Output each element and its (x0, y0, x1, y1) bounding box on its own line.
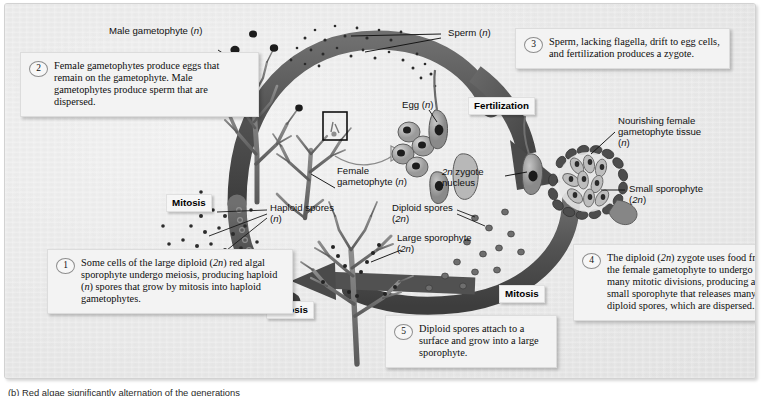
callout-text: Female gametophytes produce eggs that re… (54, 60, 249, 108)
diploid-spores-leaders (457, 210, 485, 226)
callout-step-2: 2 Female gametophytes produce eggs that … (20, 52, 259, 117)
label-sperm: Sperm (n) (448, 28, 491, 39)
label-male-gametophyte: Male gametophyte (n) (109, 26, 202, 37)
label-egg: Egg (n) (402, 100, 433, 111)
callout-step-3: 3 Sperm, lacking flagella, drift to egg … (515, 28, 730, 69)
callout-text: Some cells of the large diploid (2n) red… (81, 257, 283, 305)
stage-label-mitosis-left: Mitosis (166, 194, 212, 212)
figure-panel: Male gametophyte (n) Sperm (n) Egg (n) F… (4, 3, 756, 379)
callout-number: 3 (524, 37, 543, 53)
small-sporophyte-art (547, 144, 637, 225)
label-large-sporophyte: Large sporophyte(2n) (397, 233, 472, 255)
label-diploid-spores: Diploid spores(2n) (392, 203, 453, 225)
stage-label-fertilization: Fertilization (468, 97, 535, 115)
callout-text: Sperm, lacking flagella, drift to egg ce… (549, 36, 720, 60)
fertilization-arrow (475, 74, 561, 190)
callout-text: The diploid (2n) zygote uses food from t… (607, 252, 756, 312)
callout-number: 1 (56, 258, 75, 274)
figure-caption: (b) Red algae significantly alternation … (8, 387, 438, 396)
callout-step-4: 4 The diploid (2n) zygote uses food from… (573, 244, 756, 321)
callout-step-1: 1 Some cells of the large diploid (2n) r… (47, 249, 293, 314)
label-zygote-nucleus: 2n zygotenucleus (442, 167, 484, 189)
callout-number: 5 (394, 324, 413, 340)
label-female-gametophyte: Femalegametophyte (n) (337, 166, 407, 188)
callout-text: Diploid spores attach to a surface and g… (419, 323, 547, 359)
label-nourishing-tissue: Nourishing femalegametophyte tissue(n) (618, 116, 701, 148)
figure-root: Male gametophyte (n) Sperm (n) Egg (n) F… (0, 0, 766, 396)
label-small-sporophyte: Small sporophyte(2n) (629, 184, 703, 206)
callout-number: 2 (29, 61, 48, 77)
label-haploid-spores: Haploid spores(n) (270, 203, 334, 225)
callout-step-5: 5 Diploid spores attach to a surface and… (385, 315, 557, 368)
callout-number: 4 (582, 253, 601, 269)
stage-label-mitosis-right: Mitosis (499, 285, 545, 303)
